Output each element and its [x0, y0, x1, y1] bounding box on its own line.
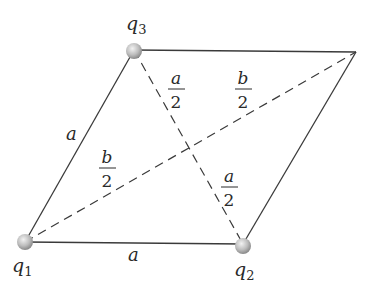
- side-right: [243, 52, 356, 244]
- charge-q2: [235, 238, 251, 254]
- fraction-long-left: b 2: [99, 147, 116, 191]
- svg-text:2: 2: [238, 92, 249, 112]
- fraction-long-right: b 2: [235, 68, 252, 112]
- svg-text:b: b: [238, 68, 249, 88]
- svg-text:2: 2: [224, 190, 235, 210]
- side-top: [134, 50, 356, 52]
- diagonal-short: [134, 50, 243, 244]
- fraction-short-lower: a 2: [221, 166, 238, 210]
- label-q3: q3: [126, 12, 146, 37]
- svg-text:b: b: [102, 147, 113, 167]
- svg-text:a: a: [224, 166, 234, 186]
- label-q2: q2: [234, 258, 254, 283]
- label-q1: q1: [12, 254, 32, 279]
- side-left: [25, 50, 134, 242]
- label-side-left: a: [66, 123, 77, 144]
- svg-text:a: a: [171, 68, 181, 88]
- fraction-short-upper: a 2: [168, 68, 185, 112]
- svg-text:2: 2: [102, 171, 113, 191]
- label-side-bottom: a: [128, 244, 139, 265]
- rhombus-diagram: q1 q2 q3 a a a 2 b 2 b 2 a 2: [0, 0, 378, 288]
- rhombus-outline: [25, 50, 356, 244]
- charge-q1: [17, 234, 33, 250]
- diagonal-long: [25, 52, 356, 242]
- charge-q3: [126, 43, 142, 59]
- svg-text:2: 2: [171, 92, 182, 112]
